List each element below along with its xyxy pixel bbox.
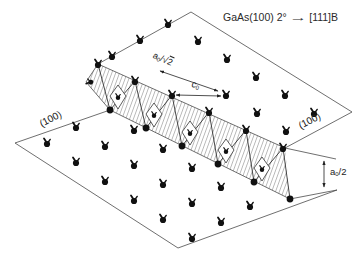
step-height-label: a0/2 [330,167,347,178]
title-system: GaAs(100) 2° [223,12,287,23]
atom-marker [131,196,137,205]
atom-marker [160,180,166,189]
atom-marker [160,145,166,154]
atom-marker [189,164,195,173]
terrace-edge [15,110,110,143]
title-direction: [111]B [309,12,338,23]
atom-marker [282,91,288,100]
terrace-edge [290,190,337,199]
a0-sqrt2-arrow [160,71,218,91]
atom-marker [224,55,230,64]
atom-marker [283,127,289,136]
atom-marker [44,139,50,148]
step-edge-atom [243,126,249,135]
terrace-edge [178,190,337,248]
step-edge-atom [280,144,286,153]
step-edge-atom [206,108,212,117]
step-bottom-atom [107,107,114,114]
step-bottom-atom [143,125,150,132]
figure-canvas: GaAs(100) 2° → [111]B a0/√2 c0 a0/2 (100… [0,0,363,254]
atom-marker [131,126,137,135]
atom-marker [73,158,79,167]
atom-marker [254,109,260,118]
atom-marker [102,142,108,151]
step-bottom-atom [287,196,294,203]
atom-marker [189,234,195,243]
atom-marker [73,123,79,132]
step-bottom-atom [215,161,222,168]
atom-marker [195,37,201,46]
terrace-edge [285,148,336,159]
step-edge-atom [132,77,138,86]
step-bottom-atom [251,179,258,186]
step-bottom-atom [179,143,186,150]
step-edge-atom [95,60,101,69]
atom-marker [189,199,195,208]
figure-title: GaAs(100) 2° → [111]B [223,12,338,23]
atom-marker [165,20,171,29]
atom-marker [247,202,253,211]
terrace-edge [15,143,178,248]
terrace-edge [191,12,352,112]
atom-marker [160,215,166,224]
atom-marker [223,91,229,100]
atom-marker [137,36,143,45]
step-edge-atom [169,91,175,100]
atom-marker [218,218,224,227]
atom-marker [253,73,259,82]
atom-marker [131,161,137,170]
atom-marker [109,52,115,61]
atom-marker [218,183,224,192]
atom-marker [102,177,108,186]
right-arrow-icon: → [289,12,307,23]
c0-arrow [176,95,221,96]
